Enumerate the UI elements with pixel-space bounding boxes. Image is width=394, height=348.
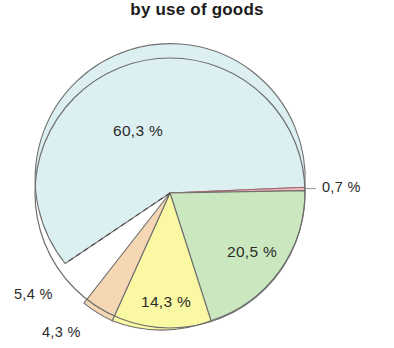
pie-chart-canvas: 60,3 % 0,7 % 20,5 % 14,3 % 4,3 % 5,4 %: [0, 0, 394, 348]
pie-chart-figure: tilli GDI-5 by use of goods 60,3 % 0,7 %…: [0, 0, 394, 348]
pie-label-0-7: 0,7 %: [322, 179, 361, 195]
pie-label-5-4: 5,4 %: [14, 286, 53, 302]
pie-label-4-3: 4,3 %: [42, 324, 81, 340]
pie-label-14-3: 14,3 %: [141, 293, 191, 310]
pie-label-60-3: 60,3 %: [113, 122, 163, 139]
pie-label-20-5: 20,5 %: [227, 243, 277, 260]
